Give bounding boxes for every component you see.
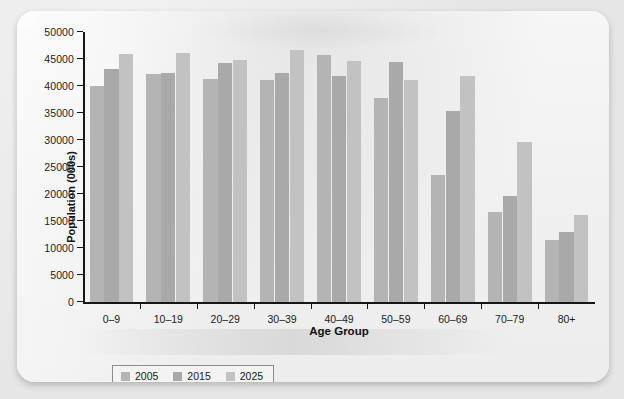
bar xyxy=(574,215,588,302)
bar xyxy=(290,50,304,302)
y-axis-tick xyxy=(77,31,83,32)
bar xyxy=(347,61,361,302)
x-axis-category-label: 40–49 xyxy=(324,313,353,325)
bar xyxy=(431,175,445,302)
x-axis-tick xyxy=(311,304,312,309)
x-axis-tick xyxy=(254,304,255,309)
legend-swatch-icon xyxy=(226,372,235,381)
bar xyxy=(275,73,289,303)
bar xyxy=(460,76,474,302)
y-axis-tick xyxy=(77,274,83,275)
legend-swatch-icon xyxy=(121,372,130,381)
legend-item[interactable]: 2005 xyxy=(121,370,158,382)
x-axis-tick xyxy=(367,304,368,309)
x-axis-tick xyxy=(197,304,198,309)
x-axis-line xyxy=(83,302,595,304)
y-axis-tick xyxy=(77,301,83,302)
bar xyxy=(218,63,232,302)
bar xyxy=(90,86,104,302)
x-axis-category-label: 30–39 xyxy=(268,313,297,325)
bar xyxy=(161,73,175,303)
bar xyxy=(503,196,517,302)
legend-label: 2005 xyxy=(135,370,158,382)
y-axis-tick xyxy=(77,247,83,248)
y-axis-tick xyxy=(77,166,83,167)
bar xyxy=(260,80,274,302)
y-axis-tick-label: 15000 xyxy=(44,215,74,227)
x-axis-category-label: 50–59 xyxy=(381,313,410,325)
legend-label: 2015 xyxy=(187,370,210,382)
legend-swatch-icon xyxy=(173,372,182,381)
legend-item[interactable]: 2025 xyxy=(226,370,263,382)
x-axis-category-label: 70–79 xyxy=(495,313,524,325)
x-axis-title: Age Group xyxy=(83,325,595,337)
bar xyxy=(146,74,160,302)
bar xyxy=(317,55,331,302)
y-axis-tick xyxy=(77,58,83,59)
y-axis-tick xyxy=(77,220,83,221)
x-axis-category-label: 0–9 xyxy=(103,313,121,325)
bar xyxy=(332,76,346,302)
bar xyxy=(404,80,418,302)
y-axis-tick-label: 0 xyxy=(68,296,74,308)
x-axis-category-label: 80+ xyxy=(558,313,576,325)
bar xyxy=(389,62,403,302)
x-axis-tick xyxy=(481,304,482,309)
bar xyxy=(104,69,118,302)
bar xyxy=(203,79,217,302)
bar xyxy=(545,240,559,302)
y-axis-tick-label: 35000 xyxy=(44,107,74,119)
x-axis-tick xyxy=(140,304,141,309)
y-axis-line xyxy=(83,32,85,304)
y-axis-tick-label: 45000 xyxy=(44,53,74,65)
bar xyxy=(374,98,388,302)
y-axis-tick xyxy=(77,193,83,194)
y-axis-tick xyxy=(77,85,83,86)
x-axis-category-label: 60–69 xyxy=(438,313,467,325)
bar xyxy=(559,232,573,302)
bar xyxy=(233,60,247,302)
x-axis-tick xyxy=(538,304,539,309)
y-axis-tick-label: 10000 xyxy=(44,242,74,254)
x-axis-category-label: 20–29 xyxy=(211,313,240,325)
x-axis-category-label: 10–19 xyxy=(154,313,183,325)
y-axis-tick-label: 30000 xyxy=(44,134,74,146)
y-axis-tick xyxy=(77,112,83,113)
y-axis-tick-label: 20000 xyxy=(44,188,74,200)
bar xyxy=(517,142,531,302)
legend-label: 2025 xyxy=(240,370,263,382)
y-axis-tick-label: 5000 xyxy=(50,269,74,281)
bar xyxy=(446,111,460,302)
bar xyxy=(176,53,190,302)
plot-area: 0500010000150002000025000300003500040000… xyxy=(83,32,595,304)
legend-item[interactable]: 2015 xyxy=(173,370,210,382)
y-axis-tick-label: 25000 xyxy=(44,161,74,173)
x-axis-tick xyxy=(424,304,425,309)
bar xyxy=(119,54,133,302)
y-axis-tick-label: 40000 xyxy=(44,80,74,92)
y-axis-tick-label: 50000 xyxy=(44,26,74,38)
bar xyxy=(488,212,502,302)
chart-legend: 200520152025 xyxy=(112,365,274,382)
chart-page: Population (000s) 0500010000150002000025… xyxy=(0,0,624,399)
y-axis-tick xyxy=(77,139,83,140)
chart-card: Population (000s) 0500010000150002000025… xyxy=(17,11,609,382)
